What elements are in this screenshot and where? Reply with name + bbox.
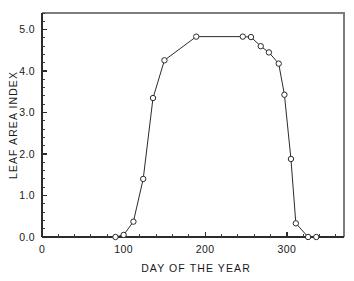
series-line: [115, 37, 316, 237]
y-tick-label: 5.0: [19, 23, 35, 35]
y-tick-label: 1.0: [19, 189, 35, 201]
x-axis-ticks: [42, 232, 336, 237]
data-point-marker: [293, 221, 298, 226]
data-point-marker: [288, 156, 293, 161]
data-point-marker: [141, 176, 146, 181]
data-point-marker: [121, 232, 126, 237]
x-tick-label: 300: [277, 243, 296, 255]
data-point-marker: [162, 58, 167, 63]
x-axis-tick-labels: 0100200300: [39, 243, 296, 255]
data-point-marker: [113, 234, 118, 239]
data-series-layer: [113, 34, 319, 240]
x-axis-title: DAY OF THE YEAR: [141, 262, 251, 274]
leaf-area-index-line-chart: 0.01.02.03.04.05.0 0100200300 LEAF AREA …: [0, 0, 354, 281]
y-tick-label: 0.0: [19, 231, 35, 243]
y-axis-tick-labels: 0.01.02.03.04.05.0: [19, 23, 35, 242]
data-point-marker: [194, 34, 199, 39]
y-axis-ticks: [42, 13, 47, 237]
y-tick-label: 4.0: [19, 65, 35, 77]
figure-container: 0.01.02.03.04.05.0 0100200300 LEAF AREA …: [0, 0, 354, 281]
data-point-marker: [266, 50, 271, 55]
x-tick-label: 200: [196, 243, 215, 255]
data-point-marker: [314, 234, 319, 239]
data-point-marker: [282, 92, 287, 97]
x-tick-label: 100: [114, 243, 133, 255]
data-point-marker: [131, 219, 136, 224]
y-tick-label: 3.0: [19, 106, 35, 118]
data-point-marker: [150, 95, 155, 100]
data-point-marker: [248, 34, 253, 39]
data-point-marker: [276, 61, 281, 66]
y-tick-label: 2.0: [19, 148, 35, 160]
data-point-marker: [305, 234, 310, 239]
data-point-marker: [240, 34, 245, 39]
x-tick-label: 0: [39, 243, 45, 255]
series-1: [113, 34, 319, 240]
plot-frame: [42, 13, 344, 237]
data-point-marker: [258, 43, 263, 48]
axes: [42, 13, 344, 237]
y-axis-title: LEAF AREA INDEX: [7, 71, 19, 179]
